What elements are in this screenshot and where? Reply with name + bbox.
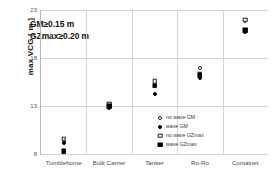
data-point <box>61 149 66 154</box>
chart-container: max VCG [ m ] GM≥0.15 m GZmax≥0.20 m 813… <box>0 0 275 182</box>
legend-marker-square-open-icon <box>156 132 164 140</box>
gridline-vertical <box>86 10 87 154</box>
data-point <box>243 28 248 33</box>
legend-item-no-wave-gzmax: no wave GZmax <box>156 131 204 140</box>
x-axis-tick-label: Tumblehome <box>46 160 82 166</box>
data-point <box>61 136 66 141</box>
legend-label-no-wave-gm: no wave GM <box>166 115 195 120</box>
legend-marker-circle-filled-icon <box>156 123 164 131</box>
gridline-horizontal <box>41 58 268 59</box>
legend-label-wave-gzmax: wave GZmax <box>166 142 197 147</box>
data-point <box>198 73 203 78</box>
gridline-vertical <box>223 10 224 154</box>
legend-item-wave-gzmax: wave GZmax <box>156 140 204 149</box>
data-point <box>152 84 157 89</box>
legend-marker-square-filled-icon <box>156 141 164 149</box>
y-axis-tick-label: 13 <box>30 103 37 109</box>
gridline-horizontal <box>41 154 268 155</box>
data-point <box>243 17 248 22</box>
legend-label-no-wave-gzmax: no wave GZmax <box>166 133 204 138</box>
legend-item-wave-gm: wave GM <box>156 122 204 131</box>
y-axis-tick-label: 23 <box>30 7 37 13</box>
plot-area: 8131823TumblehomeBulk CarrierTankerRo-Ro… <box>40 10 268 155</box>
x-axis-tick-label: Tanker <box>145 160 164 166</box>
gridline-horizontal <box>41 106 268 107</box>
gridline-vertical <box>132 10 133 154</box>
chart-legend: no wave GM wave GM no wave GZmax wave GZ… <box>156 113 204 149</box>
x-axis-tick-label: Container <box>232 160 259 166</box>
y-axis-tick-label: 18 <box>30 55 37 61</box>
legend-label-wave-gm: wave GM <box>166 124 188 129</box>
gridline-horizontal <box>41 10 268 11</box>
legend-item-no-wave-gm: no wave GM <box>156 113 204 122</box>
x-axis-tick-label: Ro-Ro <box>191 160 209 166</box>
data-point <box>107 104 112 109</box>
y-axis-tick-label: 8 <box>34 151 37 157</box>
data-point <box>62 141 66 145</box>
data-point <box>153 92 157 96</box>
data-point <box>198 66 202 70</box>
x-axis-tick-label: Bulk Carrier <box>93 160 126 166</box>
legend-marker-circle-open-icon <box>156 114 164 122</box>
